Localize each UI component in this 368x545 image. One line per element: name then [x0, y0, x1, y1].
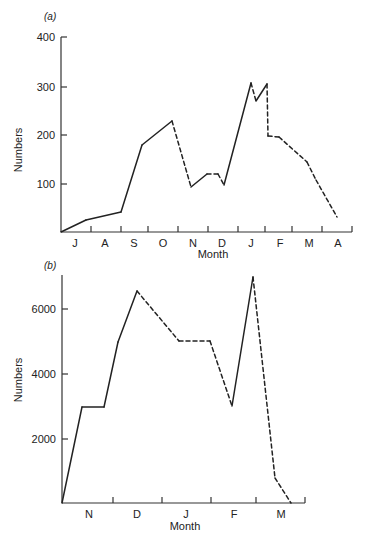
y-tick-label: 4000	[32, 368, 56, 380]
x-tick-label: S	[130, 237, 137, 249]
y-tick-label: 200	[37, 129, 55, 141]
x-tick-label: J	[183, 508, 189, 520]
x-tick-label: D	[133, 508, 141, 520]
series-segment	[224, 83, 251, 185]
x-tick-label: J	[248, 237, 254, 249]
x-tick-label: M	[276, 508, 285, 520]
series-segment	[61, 220, 86, 232]
panel-label-a: (a)	[44, 11, 56, 22]
x-tick-label: M	[304, 237, 313, 249]
series-segment	[316, 180, 337, 217]
series-segment	[172, 121, 191, 187]
series-segment	[210, 341, 232, 406]
x-tick-label: O	[159, 237, 168, 249]
x-axis-a: JASONDJFMA	[61, 226, 352, 249]
series-segment	[118, 291, 137, 342]
series-segment	[104, 342, 118, 407]
series-segment	[137, 291, 179, 341]
x-tick-label: N	[85, 508, 93, 520]
series-segment	[275, 478, 291, 503]
y-axis-title-b: Numbers	[12, 357, 24, 402]
y-tick-label: 6000	[32, 303, 56, 315]
x-tick-label: F	[277, 237, 284, 249]
series-segment	[307, 162, 316, 180]
series-segment	[267, 84, 268, 136]
x-axis-title-a: Month	[198, 248, 229, 260]
x-tick-label: A	[101, 237, 109, 249]
series-b	[62, 277, 291, 503]
x-axis-b: NDJFM	[62, 497, 305, 520]
series-segment	[268, 136, 279, 137]
series-segment	[251, 83, 256, 101]
series-segment	[191, 174, 207, 187]
chart-b: (b) 600040002000 NDJFM Month Numbers	[12, 260, 305, 532]
series-segment	[142, 121, 172, 145]
series-segment	[253, 277, 275, 478]
y-tick-label: 100	[37, 178, 55, 190]
y-axis-title-a: Numbers	[12, 127, 24, 172]
series-segment	[121, 145, 142, 212]
chart-canvas: (a) 400300200100 JASONDJFMA Month Number…	[0, 0, 368, 545]
panel-label-b: (b)	[44, 260, 56, 271]
x-axis-title-b: Month	[170, 520, 201, 532]
y-tick-label: 300	[37, 81, 55, 93]
series-a	[61, 83, 337, 232]
x-tick-label: A	[334, 237, 342, 249]
series-segment	[86, 212, 121, 220]
series-segment	[62, 407, 82, 503]
series-segment	[279, 137, 307, 162]
series-segment	[256, 84, 267, 101]
y-axis-a: 400300200100	[37, 31, 67, 232]
x-tick-label: J	[72, 237, 78, 249]
y-tick-label: 400	[37, 31, 55, 43]
y-tick-label: 2000	[32, 433, 56, 445]
series-segment	[218, 174, 224, 185]
series-segment	[232, 277, 253, 406]
y-axis-b: 600040002000	[32, 275, 68, 503]
chart-a: (a) 400300200100 JASONDJFMA Month Number…	[12, 11, 352, 260]
x-tick-label: F	[231, 508, 238, 520]
x-tick-label: N	[189, 237, 197, 249]
